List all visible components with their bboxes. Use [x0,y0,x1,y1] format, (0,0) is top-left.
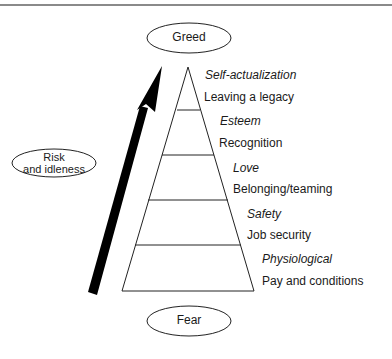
risk-label-line1: Risk [12,151,96,163]
level-4-category: Safety [247,207,281,221]
level-3-category: Love [233,161,259,175]
level-1-description: Leaving a legacy [204,90,294,104]
greed-label: Greed [147,31,231,44]
level-4-description: Job security [247,228,311,242]
level-1-category: Self-actualization [205,68,296,82]
up-arrow-icon [88,66,162,295]
risk-label: Risk and idleness [12,151,96,175]
level-3-description: Belonging/teaming [233,182,332,196]
risk-label-line2: and idleness [12,163,96,175]
fear-label: Fear [147,314,231,327]
level-5-description: Pay and conditions [262,274,363,288]
diagram-canvas [0,0,392,359]
level-5-category: Physiological [262,252,332,266]
level-2-description: Recognition [219,136,282,150]
level-2-category: Esteem [220,114,261,128]
